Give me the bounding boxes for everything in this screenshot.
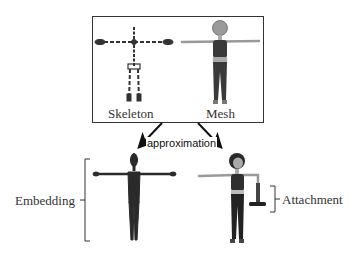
embedding-figure — [93, 154, 176, 241]
attachment-label: Attachment — [282, 192, 343, 208]
approximation-label: approximation — [146, 137, 217, 149]
attachment-bracket — [270, 186, 280, 212]
mesh-figure — [182, 21, 259, 105]
attachment-figure — [199, 153, 266, 243]
diagram-graphics — [0, 0, 358, 255]
embedding-bracket — [80, 159, 90, 241]
skeleton-label: Skeleton — [108, 106, 154, 122]
skeleton-figure — [95, 27, 173, 101]
embedding-label: Embedding — [15, 193, 75, 209]
mesh-label: Mesh — [206, 106, 235, 122]
